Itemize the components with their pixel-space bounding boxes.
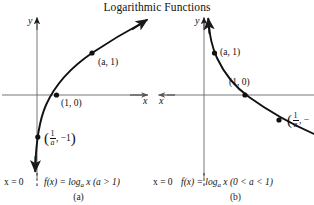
panel-a-x-axis-label: x	[143, 96, 147, 106]
paren-open: (	[287, 112, 292, 128]
panel-b-point-inv-a-label: (1a, −	[287, 112, 309, 130]
panel-b-caption-letter: (b)	[157, 192, 314, 202]
panel-b-curve-arrow-up	[208, 18, 209, 34]
panel-b-point-inv-a-dot	[276, 117, 281, 122]
paren-close: )	[71, 130, 76, 146]
panel-a-point-a-1-label: (a, 1)	[98, 58, 118, 68]
fraction-one-over-a: 1a	[293, 112, 299, 130]
point-rest: , −	[299, 116, 309, 126]
panel-b-function-label: f(x) = loga x (0 < a < 1)	[181, 178, 273, 188]
panel-a-asymptote-label: x = 0	[4, 178, 24, 188]
panel-a-function-label: f(x) = loga x (a > 1)	[44, 178, 120, 188]
log-base: a	[217, 181, 221, 189]
function-prefix: f(x) = log	[181, 177, 217, 187]
panel-b-point-1-0-label: (1, 0)	[229, 78, 250, 88]
panel-b-graph	[157, 0, 314, 205]
panel-b-point-1-0-dot	[242, 92, 247, 97]
panel-b: y x (a, 1) (1, 0) (1a, − x = 0 f(x) = lo…	[157, 0, 314, 205]
fraction-denominator: a	[50, 138, 56, 147]
panel-a-y-axis-label: y	[28, 16, 32, 26]
panel-a-curve-arrow-up	[132, 20, 148, 30]
panel-b-x-axis-label: x	[159, 96, 163, 106]
panel-a-point-inv-a-label: (1a, −1)	[44, 130, 76, 148]
panel-b-point-a-1-label: (a, 1)	[220, 48, 240, 58]
panel-b-asymptote-label: x = 0	[153, 178, 173, 188]
paren-open: (	[44, 130, 49, 146]
figure-root: Logarithmic Functions	[0, 0, 314, 205]
function-suffix: x (a > 1)	[86, 177, 120, 187]
function-prefix: f(x) = log	[44, 177, 80, 187]
panel-b-point-a-1-dot	[212, 50, 217, 55]
panel-a: y x (a, 1) (1, 0) (1a, −1) x = 0 f(x) = …	[0, 0, 157, 205]
fraction-one-over-a: 1a	[50, 130, 56, 148]
panel-a-point-inv-a-dot	[35, 134, 40, 139]
fraction-numerator: 1	[50, 130, 56, 138]
panel-a-point-1-0-dot	[54, 92, 59, 97]
panel-a-point-a-1-dot	[89, 50, 94, 55]
panel-b-y-axis-label: y	[195, 16, 199, 26]
panel-a-point-1-0-label: (1, 0)	[61, 99, 82, 109]
fraction-numerator: 1	[293, 112, 299, 120]
point-rest: , −1	[56, 134, 71, 144]
panel-a-caption-letter: (a)	[0, 192, 157, 202]
fraction-denominator: a	[293, 120, 299, 129]
function-suffix: x (0 < a < 1)	[223, 177, 273, 187]
log-base: a	[80, 181, 84, 189]
